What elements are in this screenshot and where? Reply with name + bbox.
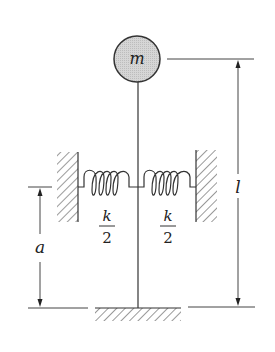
dimension-a-label: a	[35, 237, 45, 257]
left-wall	[57, 152, 78, 222]
mass: m	[114, 36, 160, 82]
pendulum-diagram: m k 2 k 2 a	[0, 0, 275, 352]
arrow-up-icon	[236, 60, 241, 68]
arrow-up-icon	[38, 188, 43, 196]
mass-label: m	[129, 49, 144, 68]
right-spring-label: k 2	[160, 207, 176, 247]
ground-hatch	[95, 308, 181, 321]
right-spring	[138, 170, 196, 195]
left-wall-hatch	[57, 152, 78, 222]
arrow-down-icon	[236, 298, 241, 306]
left-spring	[78, 170, 138, 195]
left-spring-label: k 2	[99, 207, 115, 247]
right-wall	[196, 150, 217, 222]
right-spring-numerator: k	[163, 207, 172, 225]
arrow-down-icon	[38, 299, 43, 307]
right-wall-hatch	[196, 150, 217, 222]
left-spring-denominator: 2	[102, 229, 112, 247]
right-spring-denominator: 2	[163, 229, 173, 247]
dimension-l-label: l	[235, 177, 240, 197]
left-spring-numerator: k	[102, 207, 111, 225]
ground	[95, 308, 181, 321]
